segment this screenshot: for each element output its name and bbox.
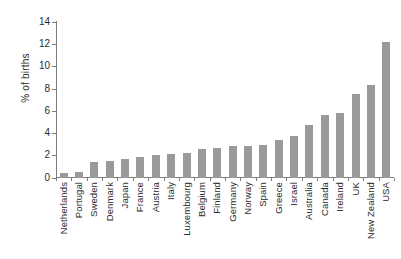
x-axis-category-label: UK: [348, 182, 363, 259]
bar: [90, 162, 98, 178]
x-axis-category-label: New Zealand: [363, 182, 378, 259]
x-axis-category-label-text: Spain: [258, 182, 268, 207]
y-axis-tick-label: 14: [28, 17, 50, 27]
bar-slot: [240, 22, 255, 178]
bar: [106, 161, 114, 178]
x-axis-category-label-text: Austria: [151, 182, 161, 212]
bar-series: [56, 22, 394, 178]
x-axis-category-label-text: Norway: [243, 182, 253, 215]
x-axis-category-label-text: Italy: [166, 182, 176, 200]
x-axis-category-label-text: Germany: [228, 182, 238, 222]
x-axis-tick: [333, 178, 334, 181]
y-axis-tick-label: 2: [28, 150, 50, 160]
x-axis-tick: [302, 178, 303, 181]
x-axis-tick: [148, 178, 149, 181]
x-axis-tick: [225, 178, 226, 181]
bar: [244, 146, 252, 178]
bar: [136, 157, 144, 178]
x-axis-category-label-text: USA: [381, 182, 391, 202]
x-axis-tick: [363, 178, 364, 181]
bar-slot: [379, 22, 394, 178]
x-axis-tick: [133, 178, 134, 181]
x-axis-category-label: Ireland: [333, 182, 348, 259]
bar-slot: [317, 22, 332, 178]
bar: [183, 153, 191, 178]
x-axis-category-label: Portugal: [71, 182, 86, 259]
x-axis-category-label: Japan: [117, 182, 132, 259]
y-axis-tick-label-text: 2: [28, 150, 50, 160]
x-axis-tick: [56, 178, 57, 181]
bar: [198, 149, 206, 178]
bar: [60, 173, 68, 178]
bar: [382, 42, 390, 178]
x-axis-tick: [87, 178, 88, 181]
x-axis-category-label-text: Canada: [320, 182, 330, 216]
x-axis-category-label: Australia: [302, 182, 317, 259]
y-axis-tick-label: 0: [28, 173, 50, 183]
y-axis-tick-label: 12: [28, 39, 50, 49]
x-axis-category-label-text: Ireland: [335, 182, 345, 212]
bar-slot: [148, 22, 163, 178]
bar-slot: [87, 22, 102, 178]
bar-slot: [194, 22, 209, 178]
bar: [75, 172, 83, 178]
x-axis-tick: [179, 178, 180, 181]
bar: [336, 113, 344, 178]
x-axis-category-label: Denmark: [102, 182, 117, 259]
x-axis-category-label-text: Portugal: [74, 182, 84, 218]
x-axis-category-labels: NetherlandsPortugalSwedenDenmarkJapanFra…: [56, 182, 394, 259]
x-axis-category-label-text: France: [135, 182, 145, 212]
bar-slot: [348, 22, 363, 178]
y-axis-tick-label-text: 6: [28, 106, 50, 116]
x-axis-category-label: Greece: [271, 182, 286, 259]
bar: [305, 125, 313, 178]
bar: [290, 136, 298, 178]
bar: [167, 154, 175, 178]
y-axis-tick-label: 10: [28, 61, 50, 71]
y-axis-tick-label-text: 10: [28, 61, 50, 71]
bar: [121, 159, 129, 178]
bar: [321, 115, 329, 178]
bar-slot: [225, 22, 240, 178]
y-axis-tick-label: 8: [28, 84, 50, 94]
bar-slot: [179, 22, 194, 178]
y-axis-tick-label: 6: [28, 106, 50, 116]
x-axis-tick: [194, 178, 195, 181]
x-axis-category-label: Germany: [225, 182, 240, 259]
x-axis-tick: [240, 178, 241, 181]
bar-slot: [102, 22, 117, 178]
x-axis-category-label-text: Sweden: [89, 182, 99, 217]
bar: [152, 155, 160, 178]
x-axis-category-label: Spain: [256, 182, 271, 259]
bar: [352, 94, 360, 178]
bar-slot: [133, 22, 148, 178]
bar-chart-figure: % of births 14121086420 NetherlandsPortu…: [0, 0, 401, 259]
y-axis-tick-label-text: 14: [28, 17, 50, 27]
bar-slot: [117, 22, 132, 178]
y-axis-tick-label-text: 4: [28, 128, 50, 138]
x-axis-tick: [271, 178, 272, 181]
x-axis-tick: [102, 178, 103, 181]
bar-slot: [286, 22, 301, 178]
bar-slot: [363, 22, 378, 178]
bar-slot: [333, 22, 348, 178]
x-axis-category-label: Sweden: [87, 182, 102, 259]
x-axis-category-label-text: New Zealand: [366, 182, 376, 239]
bar-slot: [56, 22, 71, 178]
y-axis-tick-label: 4: [28, 128, 50, 138]
x-axis-category-label-text: Israel: [289, 182, 299, 206]
x-axis-category-label: Netherlands: [56, 182, 71, 259]
x-axis-tick: [286, 178, 287, 181]
bar-slot: [271, 22, 286, 178]
bar-slot: [164, 22, 179, 178]
x-axis-category-label-text: UK: [351, 182, 361, 195]
bar: [259, 145, 267, 178]
x-axis-category-label: Finland: [210, 182, 225, 259]
x-axis-category-label-text: Luxembourg: [182, 182, 192, 236]
x-axis-category-label: Canada: [317, 182, 332, 259]
x-axis-category-label: Norway: [240, 182, 255, 259]
x-axis-tick: [117, 178, 118, 181]
x-axis-category-label: Italy: [164, 182, 179, 259]
x-axis-category-label: Belgium: [194, 182, 209, 259]
x-axis-category-label-text: Greece: [274, 182, 284, 214]
